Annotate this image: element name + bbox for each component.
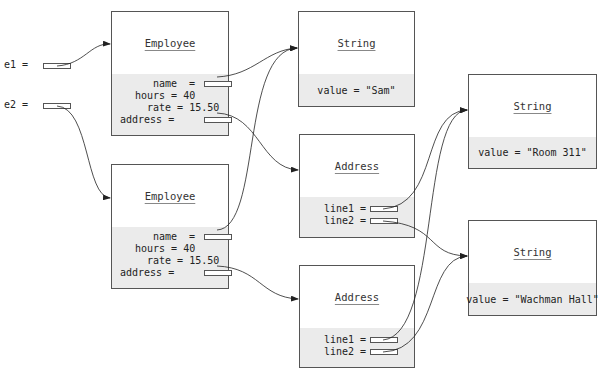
arrow-emp2-name-sam	[217, 48, 297, 230]
address-object-1[interactable]: Address line1 = line2 =	[299, 134, 415, 238]
string-value: value = "Wachman Hall"	[466, 294, 598, 305]
employee-fields: name = hours = 40 rate = 15.50 address =	[112, 74, 228, 135]
var-e2-label: e2 =	[4, 99, 28, 110]
line2-ref[interactable]	[370, 218, 398, 224]
string-header: String	[469, 221, 596, 284]
class-name: String	[514, 100, 552, 112]
address-header: Address	[300, 135, 414, 198]
field-line2: line2 =	[324, 215, 366, 227]
field-name: name =	[153, 78, 195, 90]
employee-header: Employee	[112, 165, 228, 228]
arrow-e2-employee2	[57, 106, 110, 198]
string-fields: value = "Room 311"	[469, 137, 596, 168]
var-e1-label: e1 =	[4, 59, 28, 70]
class-name: String	[514, 246, 552, 258]
address-fields: line1 = line2 =	[300, 328, 414, 367]
address-ref[interactable]	[204, 270, 232, 276]
var-e2-ref[interactable]	[43, 103, 71, 109]
line1-ref[interactable]	[370, 206, 398, 212]
name-ref[interactable]	[204, 81, 232, 87]
line2-ref[interactable]	[370, 349, 398, 355]
employee-object-2[interactable]: Employee name = hours = 40 rate = 15.50 …	[111, 164, 229, 289]
address-header: Address	[300, 266, 414, 329]
address-object-2[interactable]: Address line1 = line2 =	[299, 265, 415, 368]
field-address: address =	[120, 114, 174, 126]
employee-object-1[interactable]: Employee name = hours = 40 rate = 15.50 …	[111, 11, 229, 136]
string-value: value = "Sam"	[317, 85, 395, 96]
class-name: String	[338, 37, 376, 49]
employee-header: Employee	[112, 12, 228, 75]
field-rate: rate = 15.50	[147, 102, 219, 114]
class-name: Employee	[145, 190, 196, 202]
string-object-wachman[interactable]: String value = "Wachman Hall"	[468, 220, 597, 316]
field-rate: rate = 15.50	[147, 255, 219, 267]
var-e1-ref[interactable]	[43, 63, 71, 69]
string-header: String	[469, 75, 596, 138]
field-hours: hours = 40	[135, 90, 195, 102]
class-name: Employee	[145, 37, 196, 49]
class-name: Address	[335, 160, 379, 172]
address-fields: line1 = line2 =	[300, 197, 414, 237]
field-name: name =	[153, 231, 195, 243]
string-fields: value = "Sam"	[299, 74, 414, 106]
field-hours: hours = 40	[135, 243, 195, 255]
employee-fields: name = hours = 40 rate = 15.50 address =	[112, 227, 228, 288]
field-line1: line1 =	[324, 334, 366, 346]
field-line2: line2 =	[324, 346, 366, 358]
class-name: Address	[335, 291, 379, 303]
string-fields: value = "Wachman Hall"	[469, 283, 596, 315]
arrow-emp1-name-sam	[217, 48, 297, 77]
field-line1: line1 =	[324, 203, 366, 215]
line1-ref[interactable]	[370, 337, 398, 343]
string-header: String	[299, 12, 414, 75]
name-ref[interactable]	[204, 234, 232, 240]
string-value: value = "Room 311"	[478, 147, 586, 158]
string-object-sam[interactable]: String value = "Sam"	[298, 11, 415, 107]
field-address: address =	[120, 267, 174, 279]
address-ref[interactable]	[204, 117, 232, 123]
string-object-room[interactable]: String value = "Room 311"	[468, 74, 597, 169]
